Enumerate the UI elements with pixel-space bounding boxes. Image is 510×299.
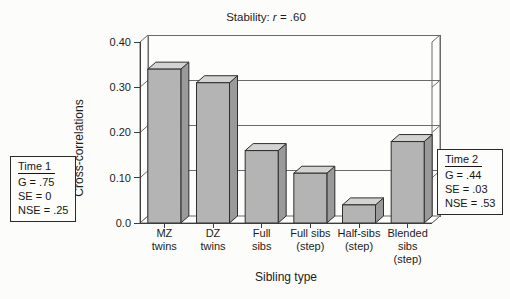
bar-side-face [230, 76, 238, 223]
bar-front-face [245, 151, 278, 223]
bar-mz-twins [148, 62, 189, 223]
bar-top-face [245, 144, 286, 151]
time2-box-title: Time 2 [445, 152, 482, 167]
bar-top-face [391, 135, 432, 142]
bar-blended-sibs-step [391, 135, 432, 223]
bar-dz-twins [197, 76, 238, 223]
y-tick-label: 0.30 [110, 81, 131, 93]
x-category-label: Blendedsibs(step) [387, 227, 427, 265]
y-tick-label: 0.20 [110, 126, 131, 138]
time2-se-value: SE = .03 [445, 182, 495, 196]
x-category-label: Full sibs(step) [290, 227, 331, 252]
bar-front-face [343, 205, 376, 223]
bar-top-face [343, 198, 384, 205]
time1-se-value: SE = 0 [18, 189, 68, 203]
time2-annotation-box: Time 2 G = .44 SE = .03 NSE = .53 [437, 149, 503, 215]
y-tick-label: 0.0 [116, 217, 131, 229]
x-category-label: Half-sibs(step) [338, 227, 381, 252]
time2-nse-value: NSE = .53 [445, 196, 495, 210]
time1-annotation-box: Time 1 G = .75 SE = 0 NSE = .25 [10, 156, 76, 222]
bar-front-face [391, 142, 424, 223]
bar-front-face [197, 83, 230, 223]
bar-side-face [278, 144, 286, 223]
bar-side-face [424, 135, 432, 223]
time2-g-value: G = .44 [445, 168, 495, 182]
bar-front-face [148, 69, 181, 223]
y-tick-label: 0.40 [110, 36, 131, 48]
time1-box-title: Time 1 [18, 159, 55, 174]
y-tick-label: 0.10 [110, 172, 131, 184]
chart-title: Stability: r = .60 [226, 11, 306, 23]
bar-full-sibs [245, 144, 286, 223]
bar-side-face [181, 62, 189, 223]
x-category-label: MZtwins [152, 227, 178, 252]
bar-half-sibs-step [343, 198, 384, 223]
bar-front-face [294, 173, 327, 223]
bar-top-face [148, 62, 189, 69]
bar-top-face [294, 166, 335, 173]
time1-nse-value: NSE = .25 [18, 203, 68, 217]
x-category-label: Fullsibs [252, 227, 272, 252]
bar-side-face [327, 166, 335, 223]
bar-top-face [197, 76, 238, 83]
time1-g-value: G = .75 [18, 175, 68, 189]
x-category-label: DZtwins [200, 227, 226, 252]
x-axis-title: Sibling type [255, 270, 317, 284]
bar-full-sibs-step [294, 166, 335, 223]
stability-bar-chart: 0.00.100.200.300.40MZtwinsDZtwinsFullsib… [0, 0, 510, 299]
